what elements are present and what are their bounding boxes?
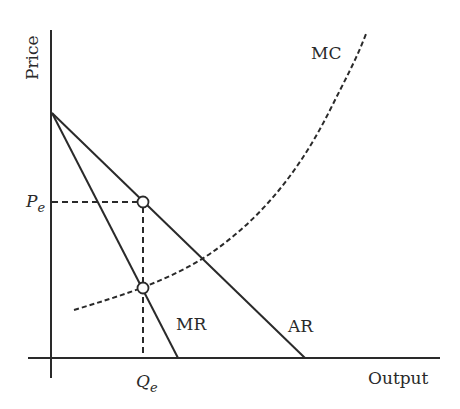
monopoly-diagram: Price Output MC MR AR Pe Qe [0,0,460,409]
mc-mr-intersection-point [138,283,149,294]
equilibrium-price-point [138,197,149,208]
equilibrium-quantity-label: Qe [136,371,158,395]
mc-label: MC [311,43,341,63]
x-axis-label: Output [368,368,429,388]
equilibrium-price-label: Pe [25,191,45,215]
ar-label: AR [287,316,314,336]
y-axis-label: Price [22,35,42,80]
mc-curve [74,34,366,310]
mr-curve [52,113,178,358]
mr-label: MR [176,314,207,334]
